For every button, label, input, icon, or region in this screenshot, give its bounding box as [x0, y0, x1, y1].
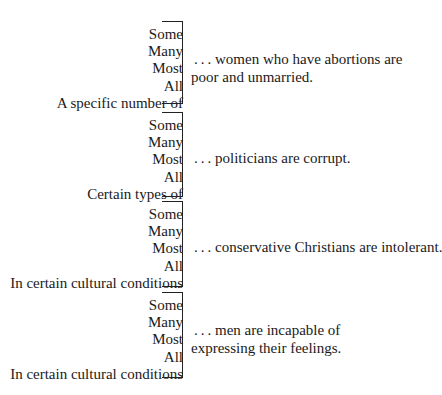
statement-line: expressing their feelings. — [191, 340, 341, 358]
statement-line: . . . men are incapable of — [191, 322, 341, 340]
quantifier-list: Some Many Most All In certain cultural c… — [10, 297, 183, 383]
quantifier: Some — [10, 206, 183, 223]
bracket — [162, 112, 183, 197]
quantifier: Most — [10, 331, 183, 348]
statement-line: . . . women who have abortions are — [191, 51, 402, 69]
quantifier-block-2: Some Many Most All Certain types of . . … — [0, 112, 433, 200]
bracket — [162, 201, 183, 287]
statement-line: . . . conservative Christians are intole… — [191, 239, 442, 257]
statement: . . . politicians are corrupt. — [191, 150, 350, 168]
quantifier: Many — [10, 314, 183, 331]
quantifier: In certain cultural conditions — [10, 275, 183, 292]
quantifier: Most — [10, 240, 183, 257]
quantifier-block-3: Some Many Most All In certain cultural c… — [0, 201, 433, 289]
bracket — [162, 292, 183, 378]
quantifier-list: Some Many Most All In certain cultural c… — [10, 206, 183, 292]
statement: . . . women who have abortions are poor … — [191, 51, 402, 86]
quantifier: In certain cultural conditions — [10, 366, 183, 383]
quantifier: Some — [10, 297, 183, 314]
quantifier-block-1: Some Many Most All A specific number of … — [0, 21, 433, 109]
bracket — [162, 21, 183, 104]
statement: . . . men are incapable of expressing th… — [191, 322, 341, 357]
quantifier: All — [10, 349, 183, 366]
quantifier: All — [10, 258, 183, 275]
quantifier-block-4: Some Many Most All In certain cultural c… — [0, 292, 433, 380]
statement-line: poor and unmarried. — [191, 69, 402, 87]
statement-line: . . . politicians are corrupt. — [191, 150, 350, 168]
quantifier: Many — [10, 223, 183, 240]
statement: . . . conservative Christians are intole… — [191, 239, 442, 257]
